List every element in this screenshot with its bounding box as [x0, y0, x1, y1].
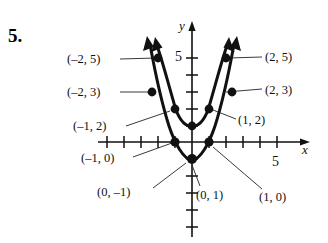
- x-axis-label: x: [302, 143, 308, 156]
- point-marker-neg1-0: [170, 137, 179, 146]
- coordinate-plane-graphic: [0, 0, 328, 243]
- leader-line-1-0: [213, 147, 262, 189]
- point-marker-0-neg1: [187, 154, 197, 164]
- point-marker-0-1: [188, 122, 197, 131]
- point-label-2-5: (2, 5): [265, 51, 292, 64]
- problem-number: 5.: [8, 26, 22, 45]
- x-axis-tick-label-5: 5: [272, 155, 279, 169]
- point-marker-1-0: [204, 137, 213, 146]
- y-axis-label: y: [179, 19, 185, 32]
- point-label-1-2: (1, 2): [238, 114, 265, 127]
- y-axis-arrowhead-icon: [188, 21, 195, 31]
- leader-line-neg2-5: [120, 58, 156, 59]
- point-marker-neg2-3: [148, 88, 157, 97]
- point-label-1-0: (1, 0): [259, 191, 286, 204]
- point-marker-neg1-2: [171, 105, 180, 114]
- point-label-0-neg1: (0, –1): [97, 186, 130, 199]
- point-marker-1-2: [205, 105, 214, 114]
- curve-arrowhead-upper-left-icon: [152, 37, 163, 52]
- y-axis-tick-label-5: 5: [175, 50, 182, 64]
- point-label-neg1-0: (–1, 0): [81, 152, 114, 165]
- point-label-2-3: (2, 3): [265, 84, 292, 97]
- leader-line-0-neg1: [153, 163, 186, 188]
- leader-line-neg1-0: [133, 143, 172, 157]
- point-marker-2-5: [222, 54, 231, 63]
- point-label-neg2-3: (–2, 3): [67, 86, 100, 99]
- point-label-neg1-2: (–1, 2): [73, 120, 106, 133]
- point-marker-2-3: [228, 88, 237, 97]
- point-label-neg2-5: (–2, 5): [67, 53, 100, 66]
- point-label-0-1: (0, 1): [196, 189, 223, 202]
- figure-root: 5. (–2, 5) (–2, 3) (–1, 2) (–1, 0) (0, –…: [0, 0, 328, 243]
- point-marker-neg2-5: [154, 54, 163, 63]
- leader-line-neg1-2: [126, 111, 170, 126]
